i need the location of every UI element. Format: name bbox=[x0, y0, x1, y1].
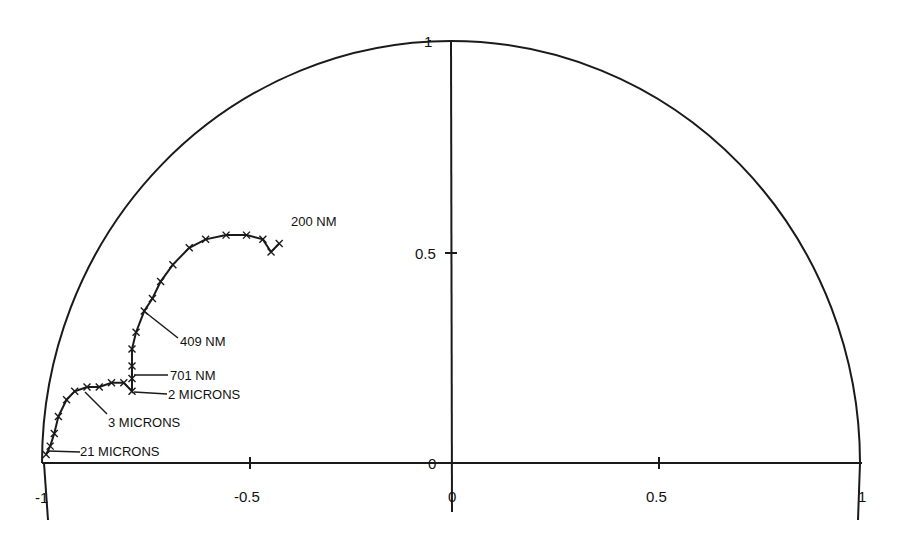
annotation-2microns: 2 MICRONS bbox=[168, 388, 240, 401]
leader-21microns bbox=[48, 451, 80, 452]
x-label-neg1: -1 bbox=[35, 490, 48, 505]
y-label-0: 0 bbox=[428, 456, 436, 471]
x-label-0: 0 bbox=[448, 489, 456, 504]
annotation-701nm: 701 NM bbox=[170, 369, 216, 382]
x-label-pos1: 1 bbox=[858, 489, 866, 504]
y-label-05: 0.5 bbox=[415, 246, 436, 261]
annotation-409nm: 409 NM bbox=[180, 335, 226, 348]
annotation-200nm: 200 NM bbox=[291, 215, 337, 228]
semicircle-chart bbox=[0, 0, 897, 548]
leader-409nm bbox=[145, 312, 178, 338]
leader-3microns bbox=[85, 392, 107, 414]
x-label-neg05: -0.5 bbox=[234, 489, 260, 504]
annotation-21microns: 21 MICRONS bbox=[80, 445, 159, 458]
annotation-3microns: 3 MICRONS bbox=[108, 416, 180, 429]
x-label-pos05: 0.5 bbox=[646, 489, 667, 504]
y-label-1: 1 bbox=[424, 34, 432, 49]
y-axis bbox=[451, 41, 452, 512]
leader-2microns bbox=[134, 392, 167, 394]
